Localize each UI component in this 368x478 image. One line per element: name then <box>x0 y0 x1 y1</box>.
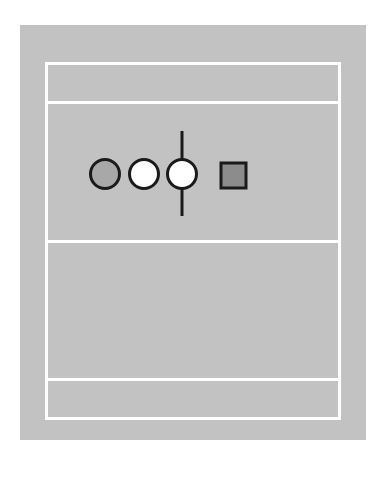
gray-circle-icon <box>91 160 120 189</box>
crossed-circle-icon <box>168 160 197 189</box>
symbol-row <box>0 0 368 478</box>
gray-square-icon <box>221 163 246 188</box>
white-circle-icon <box>130 160 159 189</box>
